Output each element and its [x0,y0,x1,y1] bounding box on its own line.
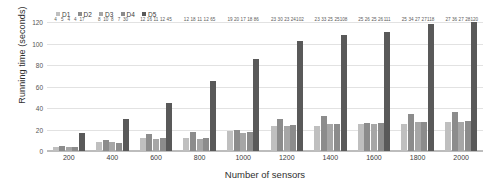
bar-rect [59,146,65,151]
bar-value-label: 33 [321,17,326,22]
bar-value-label: 27 [422,17,427,22]
legend-swatch-icon [78,12,82,16]
bar-d1-1800[interactable]: 25 [401,22,407,151]
bar-d4-1000[interactable]: 18 [247,22,253,151]
bar-d1-400[interactable]: 8 [96,22,102,151]
bar-groups: 4544178108730121611124512181112651920171… [47,22,483,151]
bar-rect [79,133,85,151]
bar-d1-200[interactable]: 4 [53,22,59,151]
bar-d3-1200[interactable]: 23 [284,22,290,151]
bar-d3-1000[interactable]: 17 [240,22,246,151]
bar-rect [116,143,122,151]
bar-d1-2000[interactable]: 27 [445,22,451,151]
bar-d5-1400[interactable]: 108 [341,22,347,151]
y-axis-title: Running time (seconds) [17,0,27,118]
legend-swatch-icon [121,12,125,16]
bar-d5-400[interactable]: 30 [123,22,129,151]
bar-rect [190,132,196,151]
bar-rect [471,22,477,151]
bar-rect [408,114,414,151]
bar-d3-600[interactable]: 11 [153,22,159,151]
bar-d5-1600[interactable]: 111 [384,22,390,151]
bar-d2-1800[interactable]: 34 [408,22,414,151]
bar-d5-1000[interactable]: 86 [253,22,259,151]
bar-d3-1400[interactable]: 25 [327,22,333,151]
legend-swatch-icon [142,12,146,16]
bar-d2-1200[interactable]: 30 [277,22,283,151]
bar-d2-600[interactable]: 16 [146,22,152,151]
bar-d2-1400[interactable]: 33 [321,22,327,151]
bar-d3-400[interactable]: 8 [109,22,115,151]
bar-d4-1600[interactable]: 26 [378,22,384,151]
bar-d4-1800[interactable]: 27 [421,22,427,151]
bar-d3-200[interactable]: 4 [66,22,72,151]
bar-rect [401,124,407,151]
bar-rect [415,122,421,151]
bar-d4-2000[interactable]: 28 [465,22,471,151]
bar-rect [72,147,78,151]
bar-value-label: 26 [378,17,383,22]
bar-value-label: 20 [234,17,239,22]
bar-d5-600[interactable]: 45 [166,22,172,151]
bar-value-label: 27 [415,17,420,22]
bar-value-label: 12 [140,17,145,22]
bar-d5-800[interactable]: 65 [210,22,216,151]
bar-d4-200[interactable]: 4 [72,22,78,151]
bar-d5-2000[interactable]: 120 [471,22,477,151]
bar-d4-800[interactable]: 12 [203,22,209,151]
bar-value-label: 120 [470,17,478,22]
x-tick-label: 600 [134,154,178,161]
bar-d5-200[interactable]: 17 [79,22,85,151]
bar-rect [166,103,172,151]
bar-d2-1600[interactable]: 26 [364,22,370,151]
bar-d3-1800[interactable]: 27 [415,22,421,151]
bar-rect [334,124,340,151]
bar-rect [384,32,390,151]
bar-rect [321,116,327,151]
y-tick-label: 100 [32,40,43,47]
bar-d1-1200[interactable]: 23 [271,22,277,151]
bar-rect [234,130,240,152]
bar-d5-1800[interactable]: 118 [428,22,434,151]
bar-d2-2000[interactable]: 36 [452,22,458,151]
legend-label: D2 [84,11,93,18]
bar-d2-200[interactable]: 5 [59,22,65,151]
bar-group-1400: 23332525108 [309,22,353,151]
bar-rect [96,142,102,151]
x-tick-label: 800 [178,154,222,161]
bar-d1-1000[interactable]: 19 [227,22,233,151]
bar-d4-600[interactable]: 12 [160,22,166,151]
bar-d2-400[interactable]: 10 [103,22,109,151]
bar-group-2000: 27362728120 [439,22,483,151]
bar-rect [297,41,303,151]
y-tick-label: 120 [32,19,43,26]
bar-d3-1600[interactable]: 25 [371,22,377,151]
bar-group-1800: 25342727118 [396,22,440,151]
bar-d4-1200[interactable]: 24 [290,22,296,151]
bar-d2-800[interactable]: 18 [190,22,196,151]
bar-rect [421,122,427,151]
bar-rect [458,122,464,151]
bar-value-label: 17 [79,17,84,22]
bar-d4-1400[interactable]: 25 [334,22,340,151]
bar-d3-800[interactable]: 11 [197,22,203,151]
bar-value-label: 86 [254,17,259,22]
plot-area: 020406080100120 454417810873012161112451… [47,22,483,151]
bar-rect [428,24,434,151]
bar-d1-1600[interactable]: 25 [358,22,364,151]
bar-group-1000: 1920171886 [221,22,265,151]
bar-d1-1400[interactable]: 23 [314,22,320,151]
bar-rect [123,119,129,151]
bar-rect [240,133,246,151]
bar-d2-1000[interactable]: 20 [234,22,240,151]
x-tick-label: 2000 [439,154,483,161]
bar-d3-2000[interactable]: 27 [458,22,464,151]
bar-value-label: 111 [384,17,391,22]
bar-d1-800[interactable]: 12 [183,22,189,151]
bar-d1-600[interactable]: 12 [140,22,146,151]
bar-rect [160,138,166,151]
bar-d4-400[interactable]: 7 [116,22,122,151]
bar-value-label: 18 [247,17,252,22]
bar-d5-1200[interactable]: 102 [297,22,303,151]
bar-value-label: 12 [204,17,209,22]
